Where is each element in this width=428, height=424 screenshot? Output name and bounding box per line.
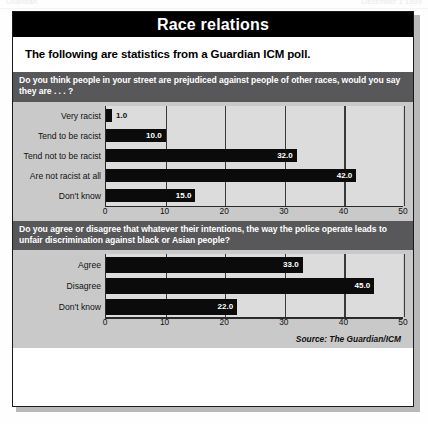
x-tick-30: 30: [279, 206, 288, 216]
intro-band: The following are statistics from a Guar…: [13, 37, 413, 72]
bar-row: Tend not to be racist32.0: [106, 146, 403, 166]
bar-value-label: 32.0: [277, 151, 297, 160]
bar-row: Are not racist at all42.0: [106, 166, 403, 186]
x-tick-50: 50: [398, 206, 407, 216]
bar-category-label: Very racist: [61, 111, 101, 121]
plot-area-2: Agree33.0Disagree45.0Don't know22.0: [105, 254, 403, 317]
bar-value-label: 22.0: [218, 302, 238, 311]
bar-category-label: Agree: [78, 260, 101, 270]
poll-panel-prejudice: Do you think people in your street are p…: [13, 72, 413, 221]
source-note: Source: The Guardian/ICM: [13, 332, 413, 348]
bar-chart-police: Agree33.0Disagree45.0Don't know22.0: [13, 254, 402, 317]
bar: 22.0: [106, 299, 237, 315]
gridline-50: [404, 106, 405, 206]
bar-value-label: 33.0: [283, 260, 303, 269]
question-text-2: Do you agree or disagree that whatever t…: [13, 221, 413, 251]
poll-panel-police: Do you agree or disagree that whatever t…: [13, 221, 413, 349]
x-tick-40: 40: [339, 206, 348, 216]
page-header-left: Guardian: [6, 0, 37, 5]
bar: 10.0: [106, 129, 166, 142]
bar-value-label: 15.0: [176, 191, 196, 200]
bar: 42.0: [106, 169, 356, 182]
bar-category-label: Are not racist at all: [30, 171, 101, 181]
bar-value-label: 10.0: [146, 131, 166, 140]
bar: 45.0: [106, 278, 374, 294]
page-header-strip: Guardian December 1 1999: [0, 0, 428, 9]
bar-row: Tend to be racist10.0: [106, 126, 403, 146]
x-tick-0: 0: [103, 206, 108, 216]
question-text-1: Do you think people in your street are p…: [13, 72, 413, 102]
x-tick-20: 20: [220, 206, 229, 216]
bar-category-label: Disagree: [67, 281, 101, 291]
page-header-rule: [0, 8, 428, 9]
bar-chart-prejudice: Very racist1.0Tend to be racist10.0Tend …: [13, 106, 402, 206]
bar-row: Agree33.0: [106, 254, 403, 275]
chart-body-2: Agree33.0Disagree45.0Don't know22.0 0102…: [13, 250, 413, 332]
page-title: Race relations: [157, 16, 269, 34]
bar-value-label: 45.0: [355, 281, 375, 290]
bar: 1.0: [106, 109, 112, 122]
bar: 15.0: [106, 189, 195, 202]
bar-category-label: Don't know: [59, 302, 101, 312]
bar-value-label: 42.0: [337, 171, 357, 180]
bar-category-label: Don't know: [59, 191, 101, 201]
bar-row: Very racist1.0: [106, 106, 403, 126]
x-tick-30: 30: [279, 317, 288, 327]
bar: 33.0: [106, 257, 303, 273]
intro-text: The following are statistics from a Guar…: [25, 48, 401, 60]
axis-rule: [105, 317, 403, 318]
card-title-bar: Race relations: [13, 12, 413, 37]
plot-area-1: Very racist1.0Tend to be racist10.0Tend …: [105, 106, 403, 206]
bar-row: Don't know15.0: [106, 186, 403, 206]
race-relations-card: Race relations The following are statist…: [12, 11, 414, 407]
x-tick-0: 0: [103, 317, 108, 327]
chart-body-1: Very racist1.0Tend to be racist10.0Tend …: [13, 102, 413, 221]
bar: 32.0: [106, 149, 297, 162]
x-axis-1: 01020304050: [105, 206, 403, 219]
bar-row: Don't know22.0: [106, 296, 403, 317]
gridline-50: [404, 254, 405, 317]
x-axis-2: 01020304050: [105, 317, 403, 330]
x-tick-10: 10: [160, 317, 169, 327]
x-tick-50: 50: [398, 317, 407, 327]
x-tick-40: 40: [339, 317, 348, 327]
bar-value-label: 1.0: [116, 111, 127, 120]
axis-rule: [105, 206, 403, 207]
x-tick-10: 10: [160, 206, 169, 216]
bar-category-label: Tend not to be racist: [24, 151, 101, 161]
page-header-right: December 1 1999: [362, 0, 422, 5]
x-tick-20: 20: [220, 317, 229, 327]
bar-row: Disagree45.0: [106, 275, 403, 296]
bar-category-label: Tend to be racist: [38, 131, 101, 141]
